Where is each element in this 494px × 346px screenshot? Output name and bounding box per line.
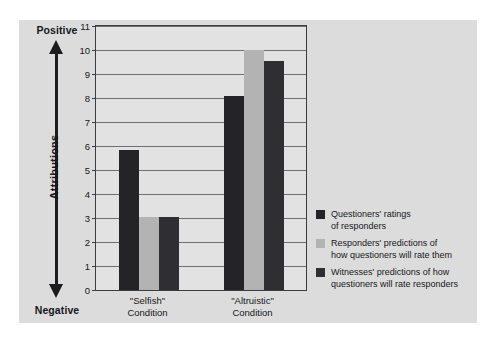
legend-item[interactable]: Witnesses' predictions of how questioner… <box>316 267 488 290</box>
gridline <box>96 290 306 291</box>
y-tick-label: 6 <box>85 141 90 152</box>
legend-label: Responders' predictions of how questione… <box>331 238 452 261</box>
y-tick-label: 7 <box>85 117 90 128</box>
y-tick-label: 1 <box>85 261 90 272</box>
legend-swatch-icon <box>316 239 325 248</box>
arrow-down-icon <box>49 284 63 298</box>
axis-double-arrow: Attributions <box>24 40 90 298</box>
y-tick-mark <box>92 290 96 291</box>
y-tick-label: 8 <box>85 93 90 104</box>
y-tick-label: 9 <box>85 69 90 80</box>
bar <box>224 96 244 290</box>
x-axis-group-label: "Altruistic"Condition <box>208 295 298 319</box>
x-label-line-2: Condition <box>103 307 193 319</box>
bar <box>264 61 284 290</box>
legend-label: Witnesses' predictions of how questioner… <box>331 267 458 290</box>
plot-area: 01234567891011 <box>95 25 307 291</box>
bar <box>139 217 159 290</box>
legend-item[interactable]: Responders' predictions of how questione… <box>316 238 488 261</box>
bar <box>159 217 179 290</box>
y-tick-label: 10 <box>79 45 90 56</box>
bar <box>244 50 264 290</box>
legend-swatch-icon <box>316 268 325 277</box>
legend-swatch-icon <box>316 210 325 219</box>
chart-figure: Positive Attributions Negative 012345678… <box>0 0 494 346</box>
x-label-line-2: Condition <box>208 307 298 319</box>
y-tick-label: 0 <box>85 285 90 296</box>
axis-title-attributions: Attributions <box>48 87 60 247</box>
x-label-line-1: "Selfish" <box>103 295 193 307</box>
bar-series-layer <box>96 26 306 290</box>
axis-anchor-negative: Negative <box>24 304 90 316</box>
legend-label: Questioners' ratings of responders <box>331 209 411 232</box>
attributions-axis: Positive Attributions Negative <box>24 24 90 316</box>
x-axis-group-label: "Selfish"Condition <box>103 295 193 319</box>
x-label-line-1: "Altruistic" <box>208 295 298 307</box>
legend: Questioners' ratings of respondersRespon… <box>316 209 488 296</box>
y-tick-label: 5 <box>85 165 90 176</box>
bar <box>119 150 139 290</box>
y-tick-label: 3 <box>85 213 90 224</box>
x-axis-labels: "Selfish"Condition"Altruistic"Condition <box>95 295 307 325</box>
y-tick-label: 2 <box>85 237 90 248</box>
legend-item[interactable]: Questioners' ratings of responders <box>316 209 488 232</box>
y-tick-label: 11 <box>80 21 90 32</box>
y-tick-label: 4 <box>85 189 90 200</box>
